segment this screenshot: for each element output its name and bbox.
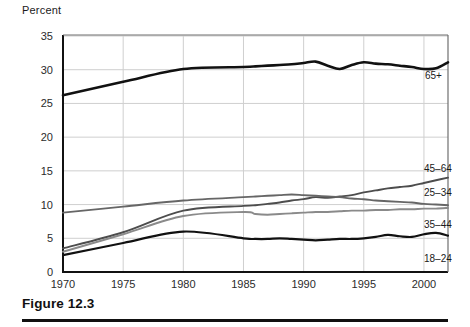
y-tick-label: 15 (41, 165, 53, 177)
chart-gridlines (63, 36, 448, 272)
figure-container: Percent 05101520253035 19701975198019851… (0, 0, 470, 327)
series-label-45-64: 45–64 (424, 163, 452, 174)
series-line-45-64 (63, 178, 448, 249)
y-tick-label: 30 (41, 64, 53, 76)
y-tick-label: 0 (47, 266, 53, 278)
y-tick-label: 10 (41, 199, 53, 211)
x-tick-label: 1970 (51, 278, 75, 290)
caption-divider (22, 319, 448, 322)
x-tick-label: 2000 (412, 278, 436, 290)
x-tick-label: 1990 (291, 278, 315, 290)
chart-y-tick-labels: 05101520253035 (41, 30, 53, 278)
line-chart: 05101520253035 1970197519801985199019952… (0, 0, 470, 296)
figure-caption-block: Figure 12.3 (0, 296, 470, 327)
x-tick-label: 1980 (171, 278, 195, 290)
series-label-18-24: 18–24 (424, 253, 452, 264)
y-tick-label: 20 (41, 131, 53, 143)
y-tick-label: 25 (41, 97, 53, 109)
series-label-35-44: 35–44 (424, 219, 452, 230)
y-tick-label: 5 (47, 232, 53, 244)
chart-plot-frame (62, 35, 448, 272)
series-label-25-34: 25–34 (424, 187, 452, 198)
x-tick-label: 1995 (352, 278, 376, 290)
chart-x-tick-labels: 1970197519801985199019952000 (51, 278, 436, 290)
series-line-35-44 (63, 208, 448, 252)
x-tick-label: 1985 (231, 278, 255, 290)
x-tick-label: 1975 (111, 278, 135, 290)
y-tick-label: 35 (41, 30, 53, 42)
series-label-65plus: 65+ (425, 70, 442, 81)
chart-series-lines (63, 62, 448, 256)
figure-caption: Figure 12.3 (22, 296, 94, 311)
series-line-65plus (63, 62, 448, 96)
